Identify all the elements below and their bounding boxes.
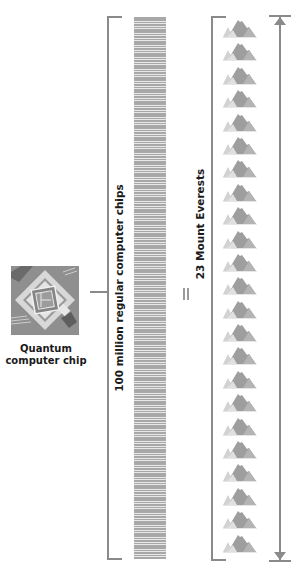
mountain-icon — [223, 439, 257, 459]
quantum-chip-label-line2: computer chip — [0, 355, 92, 367]
mountain-icon — [223, 88, 257, 108]
everests-label: 23 Mount Everests — [194, 124, 206, 324]
mountain-icon — [223, 205, 257, 225]
mountain-icon — [223, 135, 257, 155]
quantum-chip-icon — [11, 266, 79, 335]
mountain-icon — [223, 345, 257, 365]
left-bracket-top — [107, 16, 122, 18]
mountain-icon — [223, 229, 257, 249]
right-bracket — [211, 16, 213, 561]
mountain-icon — [223, 416, 257, 436]
right-bracket-bottom — [211, 559, 226, 561]
mountain-icon — [223, 392, 257, 412]
mountain-icon — [223, 322, 257, 342]
equals-icon — [183, 288, 189, 300]
mountain-icon — [223, 41, 257, 61]
arrow-down-icon — [274, 552, 286, 560]
mountain-icon — [223, 65, 257, 85]
connector-line — [90, 291, 107, 293]
regular-chips-label: 100 million regular computer chips — [113, 163, 125, 413]
height-arrow-line — [279, 17, 281, 560]
mountain-icon — [223, 299, 257, 319]
mountain-icon — [223, 486, 257, 506]
mountain-icon — [223, 369, 257, 389]
mountain-icon — [223, 509, 257, 529]
mountain-icon — [223, 275, 257, 295]
mountain-icon — [223, 182, 257, 202]
left-bracket-bottom — [107, 558, 122, 560]
mountain-icon — [223, 533, 257, 553]
mountain-icon — [223, 252, 257, 272]
arrow-up-icon — [274, 17, 286, 25]
mountain-icon — [223, 462, 257, 482]
quantum-chip-label-line1: Quantum — [0, 343, 92, 355]
arrow-bottom-bar — [269, 560, 291, 562]
mountain-icon — [223, 18, 257, 38]
mountain-icon — [223, 112, 257, 132]
left-bracket — [107, 16, 109, 560]
chip-stack-icon — [134, 17, 166, 559]
mountain-icon — [223, 158, 257, 178]
